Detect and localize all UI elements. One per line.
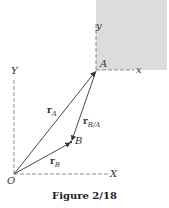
origin-label: O [7,176,15,186]
point-a-label: A [100,59,107,69]
vector-r-b [14,143,70,174]
point-b-label: B [75,136,82,146]
fixed-y-label: Y [11,66,18,76]
relative-motion-diagram [0,0,169,208]
vector-r-b-a-label: rB/A [83,117,100,129]
fixed-x-label: X [110,169,117,179]
vector-r-b-label: rB [50,157,60,169]
point-b-dot [70,141,72,143]
figure-caption: Figure 2/18 [0,190,169,201]
vector-r-b-a [72,71,96,140]
vector-r-a-label: rA [47,106,57,118]
moving-x-label: x [136,65,142,75]
moving-y-label: y [96,21,102,31]
